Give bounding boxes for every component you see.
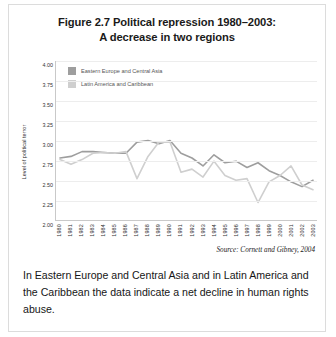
series-line-eastern-europe-and-central-asia (60, 141, 313, 187)
x-tick-2000: 2000 (277, 224, 283, 237)
figure-card: Figure 2.7 Political repression 1980–200… (8, 4, 326, 332)
x-tick-1984: 1984 (100, 224, 106, 237)
x-tick-1994: 1994 (211, 224, 217, 237)
x-tick-1989: 1989 (155, 224, 161, 237)
y-tick-3.75: 3.75 (43, 82, 54, 88)
gridline (56, 121, 317, 122)
gridline (56, 181, 317, 182)
x-tick-1999: 1999 (266, 224, 272, 237)
x-tick-1995: 1995 (222, 224, 228, 237)
chart-container: Level of political terror 4.003.753.503.… (9, 57, 325, 262)
x-tick-1993: 1993 (200, 224, 206, 237)
x-tick-1991: 1991 (177, 224, 183, 237)
y-tick-2.75: 2.75 (43, 162, 54, 168)
x-tick-1987: 1987 (133, 224, 139, 237)
legend-item-eastern-europe-and-central-asia: Eastern Europe and Central Asia (68, 67, 162, 75)
gridline (56, 161, 317, 162)
x-axis-tick-labels: 1980198119821983198419851986198719881989… (55, 222, 317, 262)
figure-caption: In Eastern Europe and Central Asia and i… (9, 267, 325, 318)
x-tick-1980: 1980 (56, 224, 62, 237)
legend-swatch-icon (68, 67, 76, 75)
x-tick-2002: 2002 (299, 224, 305, 237)
y-tick-3.50: 3.50 (43, 102, 54, 108)
gridline (56, 101, 317, 102)
gridline (56, 61, 317, 62)
legend-label: Eastern Europe and Central Asia (81, 68, 162, 74)
figure-title-line1: Figure 2.7 Political repression 1980–200… (58, 16, 276, 28)
x-tick-2003: 2003 (310, 224, 316, 237)
y-axis-tick-labels: 4.003.753.503.253.002.752.502.252.00 (31, 61, 53, 221)
gridline (56, 81, 317, 82)
chart-legend: Eastern Europe and Central Asia Latin Am… (68, 67, 162, 93)
source-note: Source: Cornett and Gibney, 2004 (216, 246, 315, 254)
y-tick-3.25: 3.25 (43, 122, 54, 128)
figure-title-line2: A decrease in two regions (9, 30, 325, 45)
y-tick-2.00: 2.00 (43, 222, 54, 228)
x-tick-1981: 1981 (67, 224, 73, 237)
y-tick-3.00: 3.00 (43, 142, 54, 148)
figure-title: Figure 2.7 Political repression 1980–200… (9, 5, 325, 45)
gridline (56, 141, 317, 142)
y-tick-2.25: 2.25 (43, 202, 54, 208)
x-tick-2001: 2001 (288, 224, 294, 237)
x-tick-1992: 1992 (189, 224, 195, 237)
x-tick-1988: 1988 (144, 224, 150, 237)
gridline (56, 201, 317, 202)
plot-area: Eastern Europe and Central Asia Latin Am… (55, 61, 317, 221)
y-tick-2.50: 2.50 (43, 182, 54, 188)
series-line-latin-america-and-caribbean (60, 142, 313, 202)
x-tick-1990: 1990 (166, 224, 172, 237)
x-tick-1997: 1997 (244, 224, 250, 237)
x-tick-1996: 1996 (233, 224, 239, 237)
y-tick-4.00: 4.00 (43, 62, 54, 68)
x-tick-1985: 1985 (111, 224, 117, 237)
y-axis-label: Level of political terror (21, 110, 27, 194)
x-tick-1983: 1983 (89, 224, 95, 237)
x-tick-1998: 1998 (255, 224, 261, 237)
x-tick-1982: 1982 (78, 224, 84, 237)
x-tick-1986: 1986 (122, 224, 128, 237)
